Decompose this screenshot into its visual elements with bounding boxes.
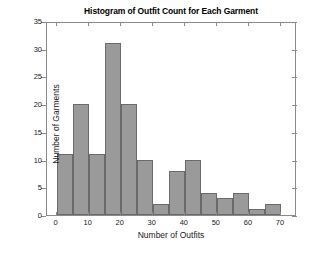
y-axis-tick-right [292, 161, 297, 162]
y-axis-tick-label: 10 [14, 157, 42, 165]
y-axis-tick-label: 30 [14, 46, 42, 54]
y-axis-tick-label: 25 [14, 73, 42, 81]
x-axis-tick [280, 212, 281, 216]
y-axis-tick-right [292, 22, 297, 23]
histogram-bar [201, 193, 217, 215]
y-axis-tick-right [292, 105, 297, 106]
chart-title: Histogram of Outfit Count for Each Garme… [46, 6, 296, 16]
histogram-bar [105, 43, 121, 215]
x-axis-tick-label: 20 [108, 218, 132, 227]
x-axis-tick-label: 70 [268, 218, 292, 227]
histogram-bar [217, 198, 233, 215]
histogram-bar [73, 104, 89, 215]
x-axis-tick-top [216, 22, 217, 26]
x-axis-tick-label: 50 [204, 218, 228, 227]
y-axis-tick-right [292, 216, 297, 217]
x-axis-tick-top [152, 22, 153, 26]
x-axis-tick [248, 212, 249, 216]
x-axis-tick-top [280, 22, 281, 26]
x-axis-tick-label: 30 [140, 218, 164, 227]
bars-layer [47, 23, 295, 215]
x-axis-tick-label: 60 [236, 218, 260, 227]
histogram-bar [153, 204, 169, 215]
x-axis-tick [184, 212, 185, 216]
x-axis-tick-top [184, 22, 185, 26]
histogram-bar [137, 160, 153, 215]
x-axis-tick-label: 10 [76, 218, 100, 227]
y-axis-tick-label: 5 [14, 184, 42, 192]
x-axis-tick [216, 212, 217, 216]
histogram-bar [121, 104, 137, 215]
histogram-bar [249, 209, 265, 215]
x-axis-tick [120, 212, 121, 216]
y-axis-tick-label: 35 [14, 18, 42, 26]
histogram-bar [169, 171, 185, 215]
y-axis-tick-right [292, 133, 297, 134]
y-axis-tick-right [292, 50, 297, 51]
x-axis-tick [88, 212, 89, 216]
x-axis-tick-top [120, 22, 121, 26]
y-axis-title: Number of Garments [51, 27, 61, 221]
x-axis-tick-top [248, 22, 249, 26]
histogram-bar [265, 204, 281, 215]
histogram-bar [89, 154, 105, 215]
histogram-figure: Histogram of Outfit Count for Each Garme… [0, 0, 312, 257]
x-axis-tick [152, 212, 153, 216]
y-axis-tick-label: 20 [14, 101, 42, 109]
y-axis-tick-right [292, 77, 297, 78]
x-axis-title: Number of Outfits [46, 230, 296, 240]
y-axis-tick-right [292, 188, 297, 189]
y-axis-tick-label: 0 [14, 212, 42, 220]
x-axis-tick-top [56, 22, 57, 26]
plot-area [46, 22, 296, 216]
x-axis-tick-label: 40 [172, 218, 196, 227]
histogram-bar [233, 193, 249, 215]
x-axis-tick-top [88, 22, 89, 26]
histogram-bar [185, 160, 201, 215]
y-axis-tick-label: 15 [14, 129, 42, 137]
